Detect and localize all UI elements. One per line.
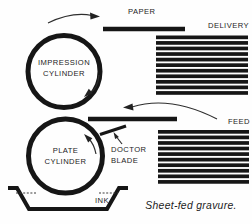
paper-sheet-stripe bbox=[156, 41, 248, 45]
paper-sheet-stripe bbox=[158, 147, 249, 151]
paper-sheet-stripe bbox=[156, 86, 248, 90]
paper-sheet-stripe bbox=[156, 58, 248, 62]
paper-sheet-stripe bbox=[156, 80, 248, 84]
doctor-blade-pointer-arrow bbox=[114, 132, 123, 144]
doctor-blade bbox=[100, 126, 126, 135]
doctor-blade-label-line2: BLADE bbox=[111, 156, 156, 167]
doctor-blade-label: DOCTOR BLADE bbox=[111, 145, 156, 166]
paper-sheet-stripe bbox=[156, 91, 248, 95]
paper-sheet-stripe bbox=[156, 74, 248, 78]
paper-sheet-stripe bbox=[158, 130, 249, 134]
paper-sheet-stripe bbox=[156, 52, 248, 56]
delivery-pile bbox=[156, 36, 248, 95]
plate-cylinder-label: PLATE CYLINDER bbox=[27, 146, 104, 167]
feed-direction-arrow bbox=[123, 103, 217, 119]
paper-sheet-stripe bbox=[156, 47, 248, 51]
delivery-label: DELIVERY bbox=[202, 21, 249, 32]
diagram-canvas: PAPER DELIVERY FEED IMPRESSION CYLINDER … bbox=[0, 0, 252, 224]
impression-cylinder-label-line1: IMPRESSION bbox=[25, 58, 103, 69]
ink-label: INK bbox=[95, 196, 109, 207]
paper-label: PAPER bbox=[128, 7, 155, 18]
doctor-blade-label-line1: DOCTOR bbox=[111, 145, 156, 156]
paper-sheet-stripe bbox=[158, 180, 249, 184]
paper-sheet-stripe bbox=[158, 169, 249, 173]
gravure-press-diagram bbox=[0, 0, 252, 224]
feed-label: FEED bbox=[220, 117, 250, 128]
paper-sheet-stripe bbox=[156, 69, 248, 73]
paper-sheet-stripe bbox=[158, 163, 249, 167]
paper-sheet-stripe bbox=[156, 63, 248, 67]
plate-cylinder-label-line2: CYLINDER bbox=[27, 157, 104, 168]
impression-rotation-arrow-top bbox=[48, 13, 100, 24]
paper-sheet-stripe bbox=[156, 36, 248, 40]
paper-sheet-stripe bbox=[158, 152, 249, 156]
plate-cylinder-label-line1: PLATE bbox=[27, 146, 104, 157]
paper-sheet-stripe bbox=[158, 158, 249, 162]
paper-sheet-stripe bbox=[158, 136, 249, 140]
paper-sheet-stripe bbox=[158, 174, 249, 178]
paper-sheet-stripe bbox=[158, 141, 249, 145]
impression-cylinder-label: IMPRESSION CYLINDER bbox=[25, 58, 103, 79]
impression-cylinder-label-line2: CYLINDER bbox=[25, 69, 103, 80]
diagram-caption: Sheet-fed gravure. bbox=[136, 200, 246, 211]
feed-pile bbox=[158, 130, 249, 184]
